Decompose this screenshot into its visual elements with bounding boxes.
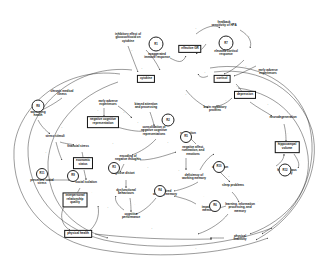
diagram-edges-layer — [0, 0, 330, 264]
diagram-canvas: inhibitory effect of glucocorticoid on c… — [0, 0, 330, 264]
edge-group — [14, 26, 314, 255]
